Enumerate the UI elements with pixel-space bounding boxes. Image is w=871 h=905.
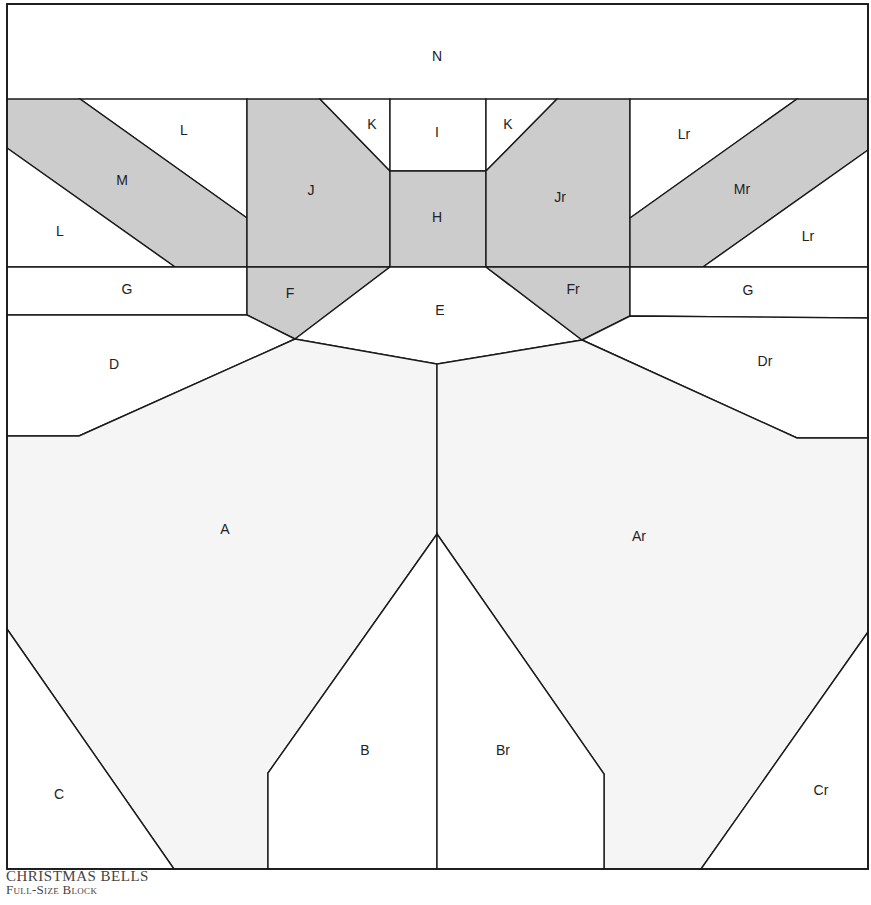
piece-label: J (308, 182, 315, 198)
quilt-block-diagram: NLMLJKIHKJrLrMrLrGFEFrGDDrAArBBrCCr (0, 0, 871, 905)
piece-label: A (220, 521, 230, 537)
piece-label: Ar (632, 528, 646, 544)
piece-label: I (435, 124, 439, 140)
piece-label: Cr (814, 782, 829, 798)
piece-label: Br (496, 742, 510, 758)
piece-label: M (116, 172, 128, 188)
piece-label: G (122, 281, 133, 297)
piece-label: Dr (758, 353, 773, 369)
piece-label: Lr (678, 126, 691, 142)
piece-label: C (54, 786, 64, 802)
piece-label: E (435, 302, 444, 318)
piece-label: K (503, 116, 513, 132)
piece-label: B (360, 742, 369, 758)
piece-label: Jr (554, 189, 566, 205)
piece-label: L (180, 122, 188, 138)
block-subtitle: Full-Size Block (6, 883, 149, 896)
piece-label: H (432, 209, 442, 225)
block-caption: CHRISTMAS BELLS Full-Size Block (6, 870, 149, 896)
piece-label: F (286, 285, 295, 301)
piece-label: Mr (734, 181, 751, 197)
piece-label: K (367, 116, 377, 132)
piece-label: Lr (802, 228, 815, 244)
piece-label: L (56, 223, 64, 239)
piece-label: Fr (566, 281, 580, 297)
piece-label: D (109, 356, 119, 372)
piece-label: G (743, 282, 754, 298)
piece-label: N (432, 48, 442, 64)
